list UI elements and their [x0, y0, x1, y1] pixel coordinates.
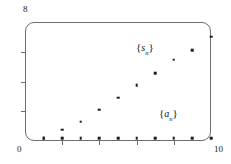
data-point: [210, 137, 213, 140]
data-point: [117, 97, 120, 100]
partial-sums-close-brace: }: [148, 41, 153, 53]
data-point: [191, 137, 194, 140]
data-point: [210, 36, 213, 39]
x-axis-tick: [62, 141, 63, 145]
data-point: [135, 137, 138, 140]
data-point: [42, 137, 45, 140]
data-point: [117, 137, 120, 140]
series-label-partial-sums: {sn}: [136, 42, 154, 56]
data-point: [154, 137, 157, 140]
y-axis-tick: [21, 111, 25, 112]
x-axis-max-label: 10: [214, 145, 223, 154]
partial-sums-subscript: n: [145, 49, 148, 56]
y-axis-tick: [21, 82, 25, 83]
terms-close-brace: }: [173, 107, 178, 119]
scatter-plot-figure: 8 0 10 {sn} {an}: [0, 0, 231, 164]
data-point: [98, 137, 101, 140]
x-axis-tick: [174, 141, 175, 145]
data-point: [61, 137, 64, 140]
data-point: [80, 137, 83, 140]
terms-subscript: n: [169, 115, 172, 122]
origin-label: 0: [17, 145, 22, 154]
data-point: [135, 84, 138, 87]
data-point: [154, 72, 157, 75]
x-axis-tick: [99, 141, 100, 145]
series-label-terms: {an}: [159, 108, 178, 122]
data-point: [98, 109, 101, 112]
data-point: [191, 49, 194, 52]
y-axis-tick: [21, 52, 25, 53]
y-axis-max-label: 8: [23, 5, 28, 14]
data-point: [80, 120, 83, 123]
plot-frame: [25, 22, 211, 141]
data-point: [173, 59, 176, 62]
data-point: [61, 129, 64, 132]
x-axis-tick: [137, 141, 138, 145]
data-point: [173, 137, 176, 140]
